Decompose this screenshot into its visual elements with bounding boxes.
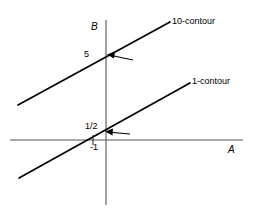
arrow-to-b-5 xyxy=(107,52,133,61)
tick-label-a-neg1: -1 xyxy=(90,143,98,152)
series-line-10-contour xyxy=(18,22,170,105)
arrow-to-b-half xyxy=(105,129,130,136)
series-label-10-contour: 10-contour xyxy=(172,17,215,26)
contour-plot-figure: B A 5 1/2 -1 10-contour 1-contour xyxy=(0,0,257,215)
tick-label-b-half: 1/2 xyxy=(85,122,98,131)
y-axis-label: B xyxy=(91,22,98,32)
tick-label-b-5: 5 xyxy=(84,50,89,59)
series-label-1-contour: 1-contour xyxy=(192,77,230,86)
x-axis-label: A xyxy=(228,145,235,155)
plot-canvas xyxy=(0,0,257,215)
series-line-1-contour xyxy=(19,83,190,178)
